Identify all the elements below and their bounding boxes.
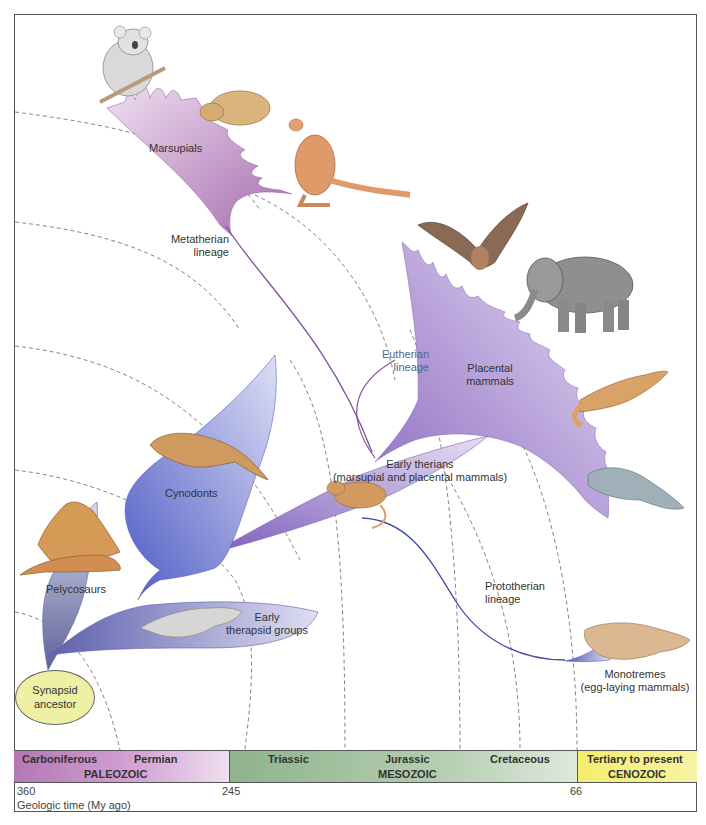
- kangaroo-icon: [289, 119, 410, 205]
- prototherian-line-1: Prototherian: [485, 580, 545, 593]
- cynodonts-branch: [125, 355, 276, 600]
- eutherian-line-1: Eutherian: [375, 348, 429, 361]
- placental-mammals-label: Placental mammals: [455, 362, 525, 388]
- eutherian-line-2: lineage: [375, 361, 429, 374]
- synapsid-ancestor-node: Synapsid ancestor: [15, 670, 95, 725]
- era-name-mesozoic: MESOZOIC: [378, 768, 437, 780]
- period-cretaceous: Cretaceous: [490, 753, 550, 765]
- therapsid-line-1: Early: [222, 611, 312, 624]
- marsupials-label: Marsupials: [149, 142, 202, 155]
- prototherian-lineage-label: Prototherian lineage: [485, 580, 545, 606]
- pelycosaurs-label: Pelycosaurs: [46, 583, 106, 596]
- ferret-icon: [575, 371, 669, 425]
- early-therians-label: Early therians (marsupial and placental …: [330, 458, 510, 484]
- eutherian-lineage-label: Eutherian lineage: [375, 348, 429, 374]
- period-carboniferous: Carboniferous: [22, 753, 97, 765]
- prototherian-line-2: lineage: [485, 593, 545, 606]
- synapsid-line-1: Synapsid: [16, 684, 94, 696]
- eutherian-lineage: [357, 360, 395, 458]
- era-cenozoic: Tertiary to present CENOZOIC: [577, 750, 697, 783]
- era-name-paleozoic: PALEOZOIC: [84, 768, 147, 780]
- metatherian-line-1: Metatherian: [165, 233, 229, 246]
- tick-66: 66: [570, 785, 582, 797]
- period-jurassic: Jurassic: [385, 753, 430, 765]
- early-therapsids-label: Early therapsid groups: [222, 611, 312, 637]
- early-therians-line-2: (marsupial and placental mammals): [330, 471, 510, 484]
- era-mesozoic: Triassic Jurassic Cretaceous MESOZOIC: [229, 750, 577, 783]
- tick-245: 245: [222, 785, 240, 797]
- era-name-cenozoic: CENOZOIC: [608, 768, 666, 780]
- period-tertiary: Tertiary to present: [587, 753, 683, 765]
- monotremes-line-1: Monotremes: [575, 668, 695, 681]
- placental-line-1: Placental: [455, 362, 525, 375]
- platypus-icon: [584, 623, 690, 659]
- era-paleozoic: Carboniferous Permian PALEOZOIC: [14, 750, 229, 783]
- period-triassic: Triassic: [268, 753, 309, 765]
- wombat-icon: [200, 91, 270, 125]
- tick-360: 360: [17, 785, 35, 797]
- phylogeny-diagram: [0, 0, 706, 825]
- monotremes-label: Monotremes (egg-laying mammals): [575, 668, 695, 694]
- metatherian-lineage-label: Metatherian lineage: [165, 233, 229, 259]
- time-axis-label: Geologic time (My ago): [17, 799, 131, 811]
- bat-icon: [418, 203, 528, 270]
- cynodonts-label: Cynodonts: [165, 487, 218, 500]
- placental-line-2: mammals: [455, 375, 525, 388]
- monotremes-line-2: (egg-laying mammals): [575, 681, 695, 694]
- metatherian-line-2: lineage: [165, 246, 229, 259]
- therapsid-line-2: therapsid groups: [222, 624, 312, 637]
- synapsid-line-2: ancestor: [16, 698, 94, 710]
- dimetrodon-icon: [20, 502, 120, 575]
- period-permian: Permian: [134, 753, 177, 765]
- elephant-icon: [515, 257, 633, 333]
- early-therians-line-1: Early therians: [330, 458, 510, 471]
